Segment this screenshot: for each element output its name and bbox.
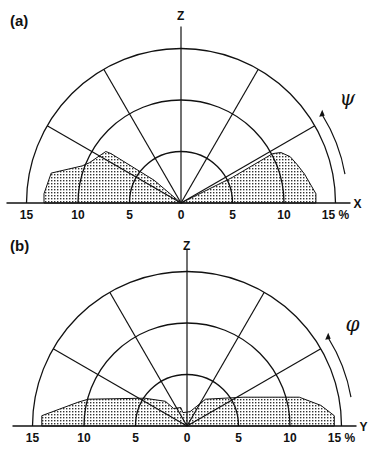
- panel-b: (b)ZY15105051015 %φ: [10, 237, 368, 445]
- tick-label: 10: [277, 208, 291, 222]
- tick-label: 10: [77, 431, 91, 445]
- tick-label: 15 %: [328, 431, 356, 445]
- tick-label: 5: [229, 208, 236, 222]
- tick-label: 5: [126, 208, 133, 222]
- tick-label: 5: [132, 431, 139, 445]
- tick-label: 15: [26, 431, 40, 445]
- tick-label: 15 %: [322, 208, 350, 222]
- arrowhead-icon: [319, 110, 325, 117]
- tick-label: 5: [235, 431, 242, 445]
- z-axis-label: Z: [177, 9, 184, 23]
- tick-label: 0: [184, 431, 191, 445]
- data-area: [44, 152, 181, 204]
- horizontal-axis-label: Y: [360, 420, 368, 434]
- data-area: [181, 153, 316, 204]
- tick-label: 15: [20, 208, 34, 222]
- angle-arrow: [328, 338, 351, 397]
- arrowhead-icon: [325, 333, 331, 340]
- angle-symbol: φ: [346, 312, 360, 336]
- angle-arrow: [322, 115, 345, 174]
- tick-label: 0: [178, 208, 185, 222]
- z-axis-label: Z: [183, 239, 190, 253]
- panel-label: (a): [10, 12, 28, 29]
- angle-symbol: ψ: [340, 86, 356, 110]
- tick-label: 10: [71, 208, 85, 222]
- tick-label: 10: [283, 431, 297, 445]
- horizontal-axis-label: X: [354, 197, 362, 211]
- panel-a: (a)ZX15105051015 %ψ: [7, 9, 362, 222]
- polar-figure: (a)ZX15105051015 %ψ (b)ZY15105051015 %φ: [0, 0, 370, 457]
- panel-label: (b): [10, 237, 29, 254]
